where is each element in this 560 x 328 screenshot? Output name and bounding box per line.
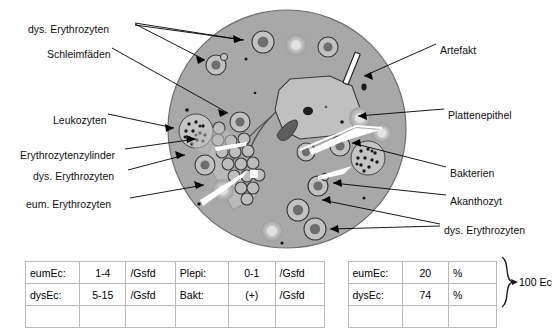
cell-value: 74 [402, 284, 448, 306]
table-gap [324, 262, 348, 284]
cell-unit: /Gsfd [126, 262, 175, 284]
label-eum-erythrozyten: eum. Erythrozyten [26, 198, 111, 210]
label-dys-erythrozyten-mid: dys. Erythrozyten [33, 170, 114, 182]
epithelial-nucleus [303, 107, 313, 115]
cell-key: eumEc: [26, 262, 80, 284]
cell-value: 0-1 [229, 262, 276, 284]
table-gap [324, 284, 348, 306]
label-schleimfaeden: Schleimfäden [47, 48, 111, 60]
cell-unit: /Gsfd [275, 284, 324, 306]
hyaline-cast-outline [300, 126, 382, 150]
squamous-epithelial-cell [275, 76, 360, 139]
leukocyte-halo [191, 128, 235, 154]
cell-value: 20 [402, 262, 448, 284]
cell-unit [448, 306, 496, 328]
leader-arrowheads [165, 35, 373, 233]
eumorphic-erythrocytes [212, 34, 392, 242]
results-table: eumEc: 1-4 /Gsfd Plepi: 0-1 /Gsfd eumEc:… [25, 261, 497, 328]
label-erythrozytenzylinder: Erythrozytenzylinder [20, 149, 115, 161]
cell-value [402, 306, 448, 328]
label-bakterien: Bakterien [450, 167, 494, 179]
acanthocyte [308, 173, 329, 196]
cell-value: 5-15 [80, 284, 126, 306]
dark-cast [277, 120, 298, 141]
cell-key: Bakt: [175, 284, 228, 306]
dysmorphic-erythrocytes [195, 31, 350, 240]
label-akanthozyt: Akanthozyt [450, 195, 502, 207]
artefact-fiber [343, 52, 367, 90]
brace-label: 100 Ec [519, 276, 552, 288]
label-artefakt: Artefakt [440, 44, 476, 56]
table-gap [324, 306, 348, 328]
debris-specks [185, 57, 365, 244]
label-plattenepithel: Plattenepithel [448, 109, 512, 121]
cell-unit: /Gsfd [126, 284, 175, 306]
label-leukozyten: Leukozyten [53, 114, 107, 126]
cell-unit: % [448, 284, 496, 306]
label-dys-erythrozyten-bottom: dys. Erythrozyten [444, 224, 525, 236]
hyaline-streaks [200, 128, 380, 206]
table-row: eumEc: 1-4 /Gsfd Plepi: 0-1 /Gsfd eumEc:… [26, 262, 497, 284]
cell-value [80, 306, 126, 328]
cell-unit: /Gsfd [275, 262, 324, 284]
cell-key [26, 306, 80, 328]
cell-key [175, 306, 228, 328]
field-of-view-circle [168, 10, 406, 248]
mucus-thread [250, 78, 304, 150]
bacteria-clump-1 [179, 114, 213, 148]
cell-key: eumEc: [348, 262, 402, 284]
erythrocyte-cast [200, 122, 265, 210]
cell-key [348, 306, 402, 328]
cell-value [229, 306, 276, 328]
leader-lines [108, 23, 446, 229]
brace-icon [498, 256, 520, 308]
cell-key: dysEc: [26, 284, 80, 306]
mucus-thread-2 [233, 116, 272, 161]
cell-key: Plepi: [175, 262, 228, 284]
cell-unit [126, 306, 175, 328]
cell-unit: % [448, 262, 496, 284]
bacteria-clump-2 [351, 141, 385, 175]
cell-value: (+) [229, 284, 276, 306]
cell-value: 1-4 [80, 262, 126, 284]
table-row: dysEc: 5-15 /Gsfd Bakt: (+) /Gsfd dysEc:… [26, 284, 497, 306]
cell-unit [275, 306, 324, 328]
cell-key: dysEc: [348, 284, 402, 306]
label-dys-erythrozyten-top: dys. Erythrozyten [28, 23, 109, 35]
table-row-partial [26, 306, 497, 328]
